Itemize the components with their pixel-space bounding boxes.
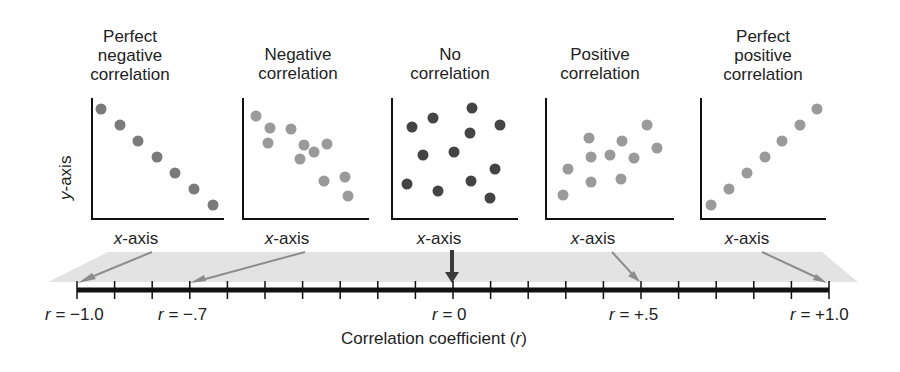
scatter-panel-no-correlation xyxy=(392,98,518,219)
scatter-panel-perfect-negative xyxy=(92,98,224,219)
r-label-minus-0.7: r = −.7 xyxy=(158,305,207,325)
r-label-minus-1: r = −1.0 xyxy=(45,305,104,325)
scatter-panel-negative xyxy=(243,98,369,219)
r-label-plus-0.5: r = +.5 xyxy=(609,305,658,325)
number-line-caption: Correlation coefficient (r) xyxy=(341,329,527,349)
scatter-panel-perfect-positive xyxy=(701,98,826,219)
correlation-number-line xyxy=(77,281,829,299)
r-label-plus-1: r = +1.0 xyxy=(790,305,849,325)
r-label-zero: r = 0 xyxy=(432,305,467,325)
scatter-panel-positive xyxy=(546,98,674,219)
